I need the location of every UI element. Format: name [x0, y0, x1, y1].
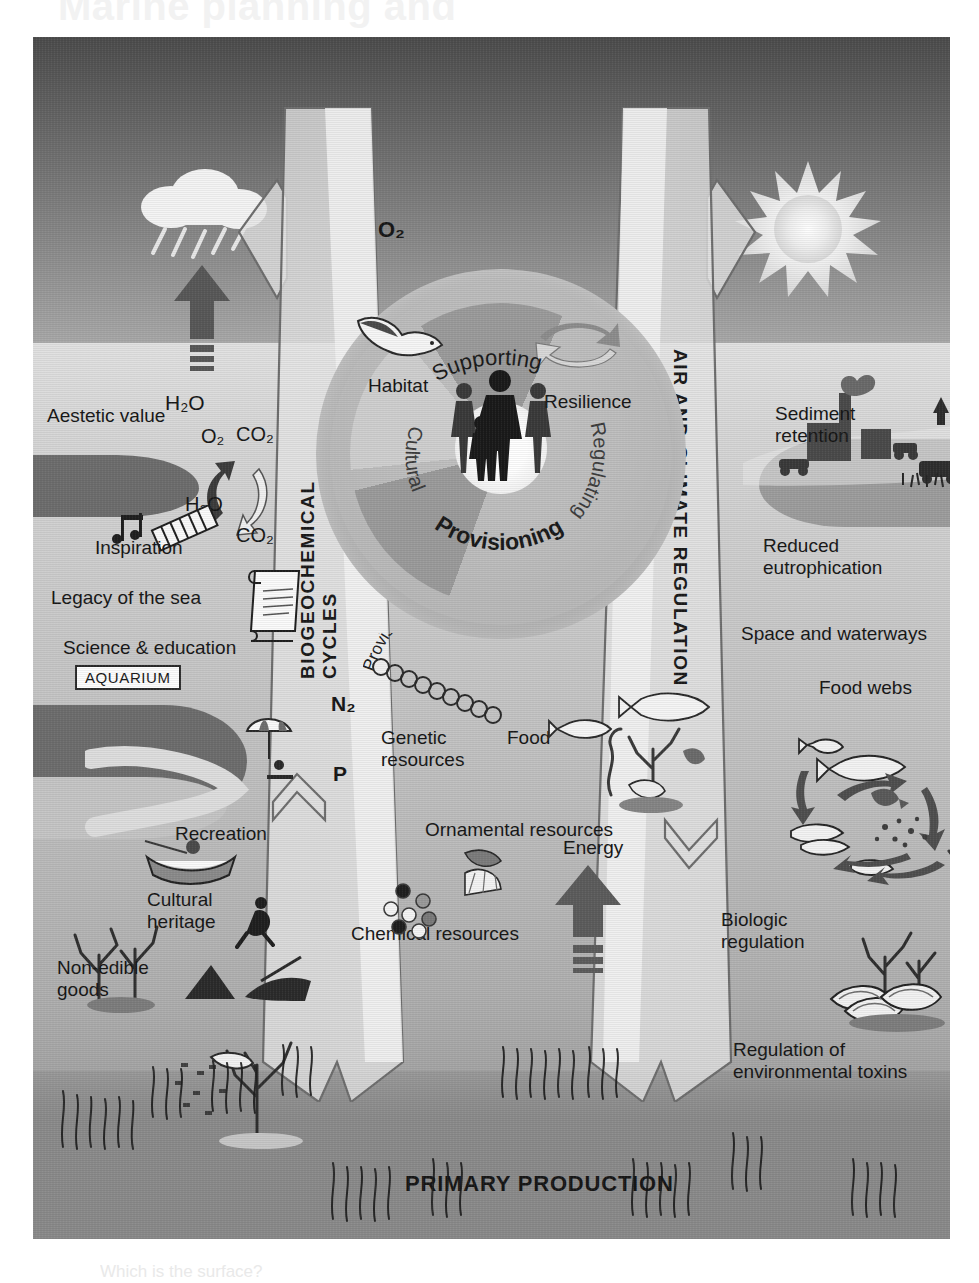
label-reduced-eutrophication: Reduced eutrophication	[763, 535, 882, 579]
food-web-cycle-icon	[777, 709, 950, 899]
label-cultural: Cultural	[402, 424, 430, 494]
beach-parasol-icon	[243, 709, 299, 783]
label-food-webs: Food webs	[819, 677, 912, 699]
mussel-bed-icon	[823, 917, 950, 1047]
label-aestetic-value: Aestetic value	[47, 405, 165, 427]
industry-and-farmland-icon	[743, 367, 950, 527]
wheel-curved-labels: Supporting Provisioning Cultural Regulat…	[316, 269, 686, 639]
label-co2-in: CO₂	[236, 423, 274, 445]
cut-off-caption: Which is the surface?	[100, 1262, 620, 1280]
label-co2-out: CO₂	[236, 524, 274, 546]
label-food: Food	[507, 727, 550, 749]
label-regulating: Regulating	[568, 420, 612, 525]
label-p: P	[333, 763, 347, 785]
h2o-evaporation-arrow-icon	[173, 265, 231, 385]
aquarium-sign: AQUARIUM	[75, 665, 181, 690]
ghost-page-header: Marine planning and	[58, 0, 758, 30]
label-non-edible-goods: Non-edible goods	[57, 957, 149, 1001]
food-marine-life-icon	[545, 685, 725, 825]
legacy-scroll-icon	[241, 561, 313, 643]
label-genetic-resources: Genetic resources	[381, 727, 464, 771]
marine-ecosystem-services-figure: H₂O BIOGEOCHEMICAL CYCLES AIR AND CLIMAT…	[33, 37, 950, 1239]
label-science-and-education: Science & education	[63, 637, 236, 659]
seagrass-bed-icon	[33, 1039, 950, 1239]
label-supporting: Supporting	[428, 345, 545, 386]
energy-arrow-icon	[553, 865, 623, 985]
label-cultural-heritage: Cultural heritage	[147, 889, 216, 933]
label-provisioning: Provisioning	[431, 510, 567, 555]
svg-text:Supporting: Supporting	[428, 345, 545, 386]
svg-text:Provisioning: Provisioning	[431, 510, 567, 555]
label-energy: Energy	[563, 837, 623, 859]
svg-text:Cultural: Cultural	[402, 424, 430, 494]
label-legacy-of-the-sea: Legacy of the sea	[51, 587, 201, 609]
chemical-molecules-icon	[373, 875, 473, 945]
label-h2o-evaporation: H₂O	[165, 392, 205, 414]
label-n2: N₂	[331, 693, 356, 715]
label-space-and-waterways: Space and waterways	[741, 623, 927, 645]
svg-text:Regulating: Regulating	[568, 420, 612, 525]
label-sediment-retention: Sediment retention	[775, 403, 855, 447]
label-recreation: Recreation	[175, 823, 267, 845]
label-inspiration: Inspiration	[95, 537, 183, 559]
label-primary-production: PRIMARY PRODUCTION	[405, 1173, 674, 1195]
label-biologic-regulation: Biologic regulation	[721, 909, 804, 953]
dna-helix-icon	[369, 657, 505, 733]
label-o2-output: O₂	[378, 219, 405, 241]
label-o2-exchange: O₂	[201, 425, 224, 447]
